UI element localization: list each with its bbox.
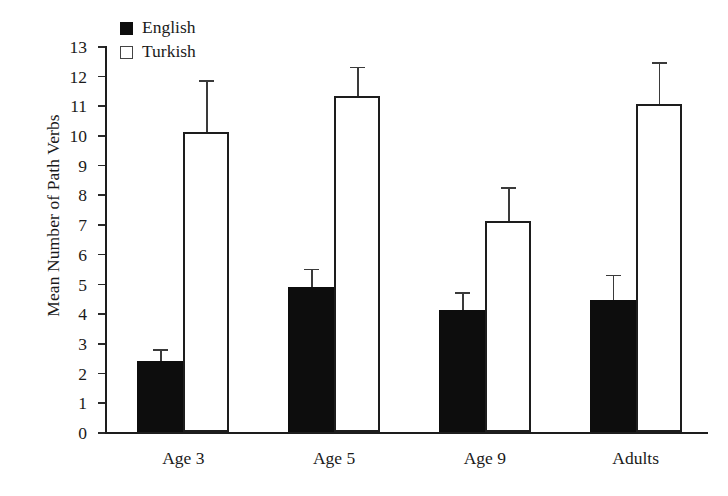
- y-tick-label: 8: [78, 185, 87, 206]
- y-axis-title: Mean Number of Path Verbs: [43, 66, 64, 366]
- y-tick-label: 9: [78, 155, 87, 176]
- error-bar-cap: [350, 67, 365, 69]
- y-tick-label: 7: [78, 215, 87, 236]
- bar-english-adults: [590, 300, 636, 432]
- legend-label: Turkish: [142, 43, 196, 61]
- bar-english-age-9: [439, 310, 485, 432]
- error-bar-turkish-adults: [659, 62, 661, 104]
- x-axis-line: [105, 432, 708, 434]
- y-tick-label: 1: [78, 393, 87, 414]
- error-bar-cap: [652, 62, 667, 64]
- error-bar-english-age-3: [160, 349, 162, 361]
- bar-turkish-age-9: [485, 221, 531, 432]
- y-tick-0: 0: [98, 432, 105, 434]
- legend-swatch-hollow-icon: [120, 46, 133, 59]
- bar-chart: Mean Number of Path Verbs 01234567891011…: [0, 0, 728, 496]
- y-tick-12: 12: [98, 76, 105, 78]
- y-tick-5: 5: [98, 284, 105, 286]
- y-tick-1: 1: [98, 402, 105, 404]
- y-tick-13: 13: [98, 46, 105, 48]
- y-tick-10: 10: [98, 135, 105, 137]
- error-bar-cap: [199, 80, 214, 82]
- x-label-age-5: Age 5: [313, 448, 355, 469]
- y-tick-6: 6: [98, 254, 105, 256]
- y-axis-line: [105, 46, 107, 434]
- y-tick-7: 7: [98, 224, 105, 226]
- error-bar-english-age-9: [462, 292, 464, 310]
- legend-item-english: English: [120, 16, 196, 40]
- error-bar-turkish-age-3: [206, 80, 208, 132]
- y-tick-label: 6: [78, 244, 87, 265]
- error-bar-english-adults: [613, 275, 615, 300]
- y-tick-label: 13: [70, 37, 88, 58]
- bar-turkish-age-5: [334, 96, 380, 432]
- y-tick-label: 0: [78, 423, 87, 444]
- x-label-age-3: Age 3: [162, 448, 204, 469]
- y-tick-label: 12: [70, 66, 88, 87]
- y-tick-4: 4: [98, 313, 105, 315]
- plot-area: 012345678910111213: [105, 46, 708, 434]
- legend-swatch-filled-icon: [120, 22, 133, 35]
- error-bar-turkish-age-5: [357, 67, 359, 97]
- error-bar-english-age-5: [311, 269, 313, 287]
- bar-english-age-3: [137, 361, 183, 432]
- y-tick-label: 4: [78, 304, 87, 325]
- chart-legend: EnglishTurkish: [120, 16, 196, 64]
- error-bar-cap: [455, 292, 470, 294]
- y-tick-label: 11: [70, 96, 87, 117]
- y-tick-label: 10: [70, 126, 88, 147]
- y-tick-label: 3: [78, 333, 87, 354]
- x-label-adults: Adults: [612, 448, 659, 469]
- error-bar-turkish-age-9: [508, 187, 510, 221]
- bar-turkish-adults: [636, 104, 682, 432]
- error-bar-cap: [304, 269, 319, 271]
- y-tick-11: 11: [98, 105, 105, 107]
- bar-turkish-age-3: [183, 132, 229, 432]
- legend-item-turkish: Turkish: [120, 40, 196, 64]
- y-tick-8: 8: [98, 194, 105, 196]
- y-tick-3: 3: [98, 343, 105, 345]
- error-bar-cap: [153, 349, 168, 351]
- x-label-age-9: Age 9: [464, 448, 506, 469]
- error-bar-cap: [606, 275, 621, 277]
- y-tick-9: 9: [98, 165, 105, 167]
- error-bar-cap: [501, 187, 516, 189]
- bar-english-age-5: [288, 287, 334, 432]
- legend-label: English: [142, 19, 195, 37]
- y-tick-2: 2: [98, 373, 105, 375]
- y-tick-label: 5: [78, 274, 87, 295]
- y-tick-label: 2: [78, 363, 87, 384]
